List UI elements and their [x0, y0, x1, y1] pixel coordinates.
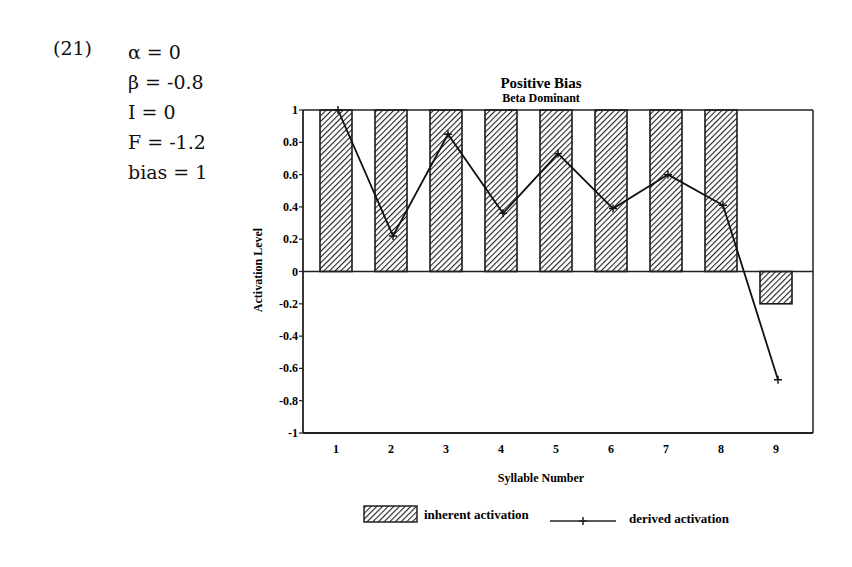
legend-swatch-inherent — [364, 506, 417, 522]
y-tick-label: -0.4 — [279, 329, 298, 343]
bar-9 — [760, 272, 792, 304]
legend: inherent activation derived activation — [364, 506, 730, 526]
y-axis-label: Activation Level — [251, 227, 265, 312]
x-tick-label: 7 — [663, 442, 669, 456]
chart-title: Positive Bias — [500, 75, 581, 91]
legend-label-inherent: inherent activation — [424, 507, 530, 522]
chart: Positive Bias Beta Dominant 10.80.60.40.… — [0, 0, 852, 567]
bar-2 — [375, 110, 407, 272]
x-tick-label: 2 — [388, 442, 394, 456]
x-axis-label: Syllable Number — [498, 471, 585, 485]
y-tick-label: 1 — [292, 103, 298, 117]
x-tick-label: 1 — [333, 442, 339, 456]
bar-4 — [485, 110, 517, 272]
y-tick-label: 0.4 — [283, 200, 298, 214]
y-axis: 10.80.60.40.20-0.2-0.4-0.6-0.8-1 — [279, 103, 303, 440]
y-tick-label: 0.2 — [283, 232, 298, 246]
chart-subtitle: Beta Dominant — [502, 91, 580, 105]
bar-8 — [705, 110, 737, 272]
bar-5 — [540, 110, 572, 272]
y-tick-label: -0.2 — [279, 297, 298, 311]
legend-marker-derived — [579, 517, 587, 525]
x-tick-label: 8 — [718, 442, 724, 456]
x-tick-label: 4 — [498, 442, 504, 456]
bar-7 — [650, 110, 682, 272]
bar-group — [320, 110, 792, 304]
legend-label-derived: derived activation — [629, 511, 730, 526]
y-tick-label: 0 — [292, 265, 298, 279]
x-tick-label: 6 — [608, 442, 614, 456]
x-axis: 123456789 — [333, 442, 779, 456]
derived-point-9 — [774, 376, 782, 384]
x-tick-label: 5 — [553, 442, 559, 456]
y-tick-label: 0.8 — [283, 135, 298, 149]
y-tick-label: -1 — [288, 426, 298, 440]
x-tick-label: 9 — [773, 442, 779, 456]
bar-1 — [320, 110, 352, 272]
bar-6 — [595, 110, 627, 272]
y-tick-label: -0.8 — [279, 394, 298, 408]
x-tick-label: 3 — [443, 442, 449, 456]
y-tick-label: -0.6 — [279, 361, 298, 375]
y-tick-label: 0.6 — [283, 168, 298, 182]
